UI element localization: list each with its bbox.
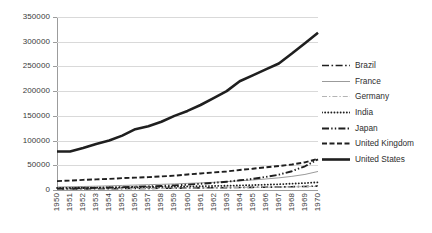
x-axis-tick-label: 1960 [184,193,192,211]
legend-label-france: France [355,77,381,86]
legend-swatch-united-kingdom-icon [322,139,350,148]
x-axis-tick-label: 1956 [131,193,139,211]
y-axis-tick [53,141,57,142]
x-axis-tick-label: 1951 [66,193,74,211]
y-axis-tick-label: 0 [0,186,50,194]
x-axis-tick-label: 1969 [301,193,309,211]
x-axis-tick-label: 1968 [288,193,296,211]
legend-label-united-kingdom: United Kingdom [355,139,414,148]
y-axis-tick-label: 50000 [0,161,50,169]
legend-label-germany: Germany [355,92,389,101]
x-axis-tick-label: 1954 [105,193,113,211]
y-axis-tick-label: 150000 [0,112,50,120]
x-axis-tick-label: 1953 [92,193,100,211]
x-axis-tick-label: 1963 [223,193,231,211]
x-axis-tick-label: 1967 [275,193,283,211]
y-axis-tick-label: 250000 [0,62,50,70]
legend-item-brazil[interactable]: Brazil [322,58,432,74]
legend-swatch-japan-icon [322,124,350,133]
legend-swatch-brazil-icon [322,61,350,70]
line-chart: 0500001000001500002000002500003000003500… [0,0,432,233]
y-axis-tick-label: 200000 [0,87,50,95]
legend-item-united-states[interactable]: United States [322,152,432,168]
legend-swatch-india-icon [322,108,350,117]
x-axis-tick-label: 1970 [314,193,322,211]
legend-label-india: India [355,108,373,117]
series-line-united-states [57,33,318,152]
y-axis-tick-label: 350000 [0,13,50,21]
x-axis-tick-label: 1959 [170,193,178,211]
legend-item-france[interactable]: France [322,74,432,90]
y-axis-tick-label: 300000 [0,38,50,46]
x-axis-tick-label: 1952 [79,193,87,211]
legend-label-united-states: United States [355,155,405,164]
y-axis-tick-label: 100000 [0,137,50,145]
gridline [57,190,318,191]
x-axis-labels: 1950195119521953195419551956195719581959… [57,193,318,233]
legend-label-brazil: Brazil [355,61,376,70]
x-axis-tick-label: 1966 [262,193,270,211]
plot-area [57,17,318,190]
y-axis-tick [53,190,57,191]
x-axis-tick-label: 1957 [144,193,152,211]
legend-label-japan: Japan [355,124,378,133]
legend-item-japan[interactable]: Japan [322,120,432,136]
y-axis-tick [53,91,57,92]
y-axis-tick [53,17,57,18]
x-axis-tick-label: 1962 [210,193,218,211]
x-axis-tick-label: 1958 [157,193,165,211]
legend: BrazilFranceGermanyIndiaJapanUnited King… [322,58,432,167]
x-axis-tick-label: 1964 [236,193,244,211]
legend-swatch-germany-icon [322,92,350,101]
legend-item-india[interactable]: India [322,105,432,121]
legend-swatch-france-icon [322,77,350,86]
y-axis-tick [53,42,57,43]
x-axis-tick-label: 1950 [53,193,61,211]
x-axis-tick-label: 1955 [118,193,126,211]
x-axis-tick-label: 1961 [197,193,205,211]
y-axis-tick [53,116,57,117]
y-axis-tick [53,66,57,67]
legend-swatch-united-states-icon [322,155,350,164]
legend-item-united-kingdom[interactable]: United Kingdom [322,136,432,152]
series-lines [57,17,318,190]
legend-item-germany[interactable]: Germany [322,89,432,105]
x-axis-tick-label: 1965 [249,193,257,211]
y-axis-tick [53,165,57,166]
